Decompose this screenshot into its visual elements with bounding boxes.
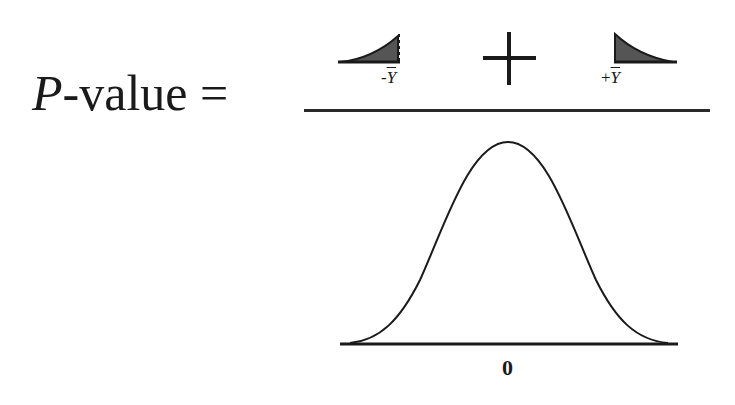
fraction-bar (304, 109, 710, 112)
plus-sign: + (601, 68, 611, 87)
left-tail-area-icon (338, 34, 400, 62)
p-value-diagram (0, 0, 735, 405)
y-bar-symbol: Y (611, 68, 620, 87)
right-tail-label: +Y (601, 68, 620, 88)
left-tail-label: -Y (381, 68, 396, 88)
normal-distribution-curve (340, 142, 678, 344)
y-bar-symbol: Y (387, 68, 396, 87)
right-tail-area-icon (614, 34, 677, 62)
axis-zero-label: 0 (502, 355, 513, 381)
plus-operator-icon (483, 32, 536, 85)
